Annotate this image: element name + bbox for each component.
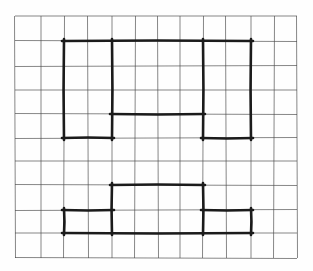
figure-canvas bbox=[0, 0, 313, 271]
graph-paper-figure bbox=[0, 0, 313, 271]
